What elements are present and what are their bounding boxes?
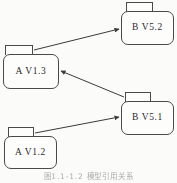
edge-a13-to-b52 [34,29,119,50]
node-body[interactable]: B V5.1 [121,101,174,135]
edge-a12-to-b51 [35,117,119,133]
node-body[interactable]: B V5.2 [121,11,174,45]
node-body[interactable]: A V1.3 [3,54,59,89]
node-label: B V5.2 [132,23,163,33]
node-label: B V5.1 [132,113,163,123]
node-label: A V1.3 [16,67,47,77]
edge-b51-to-a13 [61,71,124,97]
node-body[interactable]: A V1.2 [4,136,57,169]
node-label: A V1.2 [15,148,46,158]
figure-caption: 图1.1-1.2 模型引用关系 [0,170,177,181]
diagram-canvas: B V5.2 A V1.3 B V5.1 A V1.2 图1.1-1.2 模型引… [0,0,177,183]
